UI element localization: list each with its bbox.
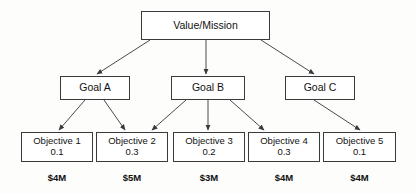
edge-goal-a-objective-1 xyxy=(59,100,85,130)
hierarchy-diagram: Value/Mission Goal A Goal B Goal C Objec… xyxy=(0,0,416,194)
edge-root-goal-c xyxy=(261,40,314,74)
edge-goal-c-objective-5 xyxy=(314,100,360,130)
objective-weight: 0.3 xyxy=(277,147,290,158)
edge-root-goal-a xyxy=(97,40,150,74)
cost-label-objective-1: $4M xyxy=(21,172,93,183)
objective-weight: 0.2 xyxy=(202,147,215,158)
edge-goal-b-objective-2 xyxy=(152,100,186,130)
node-label: Goal A xyxy=(79,82,111,94)
edge-goal-b-objective-4 xyxy=(230,100,264,130)
node-objective-2[interactable]: Objective 2 0.3 xyxy=(96,132,168,162)
cost-label-objective-3: $3M xyxy=(173,172,245,183)
node-goal-c[interactable]: Goal C xyxy=(285,76,355,100)
node-label: Value/Mission xyxy=(173,20,238,32)
node-goal-b[interactable]: Goal B xyxy=(171,76,245,100)
cost-label-objective-5: $4M xyxy=(323,172,396,183)
cost-label-objective-2: $5M xyxy=(96,172,168,183)
node-objective-4[interactable]: Objective 4 0.3 xyxy=(248,132,320,162)
objective-weight: 0.3 xyxy=(125,147,138,158)
node-value-mission[interactable]: Value/Mission xyxy=(141,11,270,40)
node-objective-5[interactable]: Objective 5 0.1 xyxy=(323,132,396,162)
node-label: Goal B xyxy=(192,82,224,94)
node-objective-1[interactable]: Objective 1 0.1 xyxy=(21,132,93,162)
objective-weight: 0.1 xyxy=(50,147,63,158)
node-goal-a[interactable]: Goal A xyxy=(60,76,130,100)
node-objective-3[interactable]: Objective 3 0.2 xyxy=(173,132,245,162)
cost-label-objective-4: $4M xyxy=(248,172,320,183)
node-label: Goal C xyxy=(304,82,337,94)
objective-weight: 0.1 xyxy=(353,147,366,158)
edge-goal-a-objective-2 xyxy=(104,100,125,130)
